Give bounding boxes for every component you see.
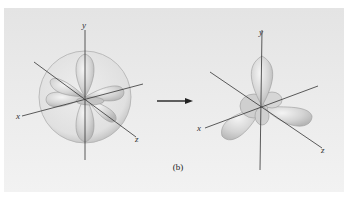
transformation-arrow — [157, 98, 193, 104]
right-orbital-diagram: y x z — [196, 27, 325, 170]
left-x-axis-label: x — [15, 111, 20, 121]
right-z-axis-label: z — [320, 145, 325, 155]
left-y-axis-label: y — [81, 20, 86, 30]
left-orbital-diagram: y x z — [15, 20, 143, 160]
arrow-head-icon — [185, 98, 193, 104]
left-z-axis-label: z — [134, 134, 139, 144]
right-x-axis-label: x — [196, 123, 201, 133]
right-y-axis-label: y — [258, 27, 263, 37]
right-lobes — [222, 56, 312, 140]
figure-caption: (b) — [0, 162, 356, 172]
